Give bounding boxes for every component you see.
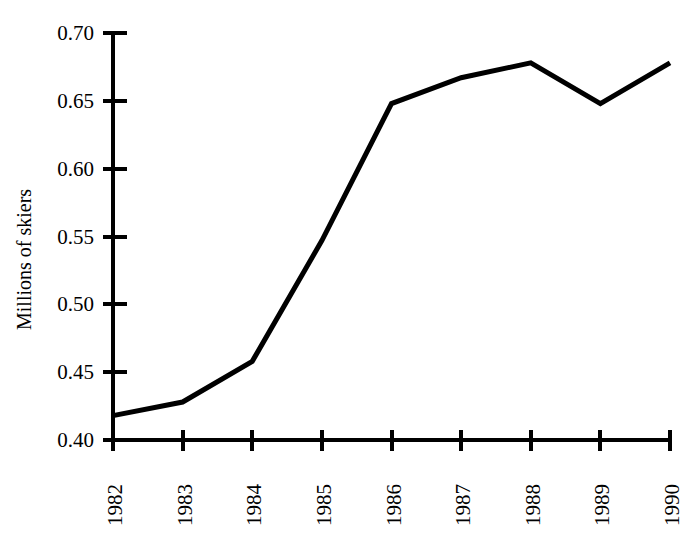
x-tick-label-1990: 1990 — [662, 484, 683, 526]
y-tick-label-0.70: 0.70 — [22, 23, 94, 44]
x-tick-label-1985: 1985 — [314, 484, 335, 526]
y-tick-label-0.40: 0.40 — [22, 430, 94, 451]
y-axis-title: Millions of skiers — [14, 189, 34, 330]
x-tick-label-1986: 1986 — [384, 484, 405, 526]
data-series-line — [113, 63, 670, 416]
x-tick-label-1984: 1984 — [244, 484, 265, 526]
x-tick-label-1987: 1987 — [453, 484, 474, 526]
y-tick-label-0.45: 0.45 — [22, 362, 94, 383]
x-tick-label-1982: 1982 — [105, 484, 126, 526]
y-tick-label-0.60: 0.60 — [22, 159, 94, 180]
x-tick-label-1988: 1988 — [523, 484, 544, 526]
y-tick-label-0.65: 0.65 — [22, 91, 94, 112]
x-tick-label-1983: 1983 — [175, 484, 196, 526]
x-tick-label-1989: 1989 — [592, 484, 613, 526]
